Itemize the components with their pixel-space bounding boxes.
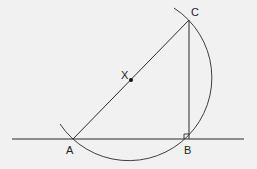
background <box>0 0 257 169</box>
label-x: X <box>121 69 129 81</box>
label-a: A <box>66 144 74 156</box>
point-x <box>129 78 133 82</box>
label-c: C <box>191 6 199 18</box>
geometry-diagram: C X A B <box>0 0 257 169</box>
label-b: B <box>184 144 191 156</box>
